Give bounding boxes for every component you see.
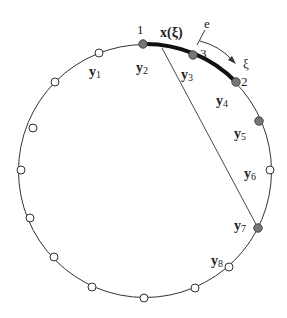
node bbox=[225, 263, 233, 271]
diagram-canvas: 1 3 2 x(ξ) e ξ y1 y2 y3 y4 y5 y6 y7 y8 bbox=[0, 0, 287, 318]
y-label-8: y8 bbox=[211, 253, 223, 269]
node-3 bbox=[189, 51, 197, 59]
node-1 bbox=[139, 40, 147, 48]
node-label-2: 2 bbox=[241, 74, 248, 89]
open-nodes bbox=[17, 49, 274, 302]
node-y7 bbox=[254, 224, 262, 232]
y-label-1: y1 bbox=[89, 64, 101, 80]
node bbox=[17, 166, 25, 174]
node-y5 bbox=[255, 117, 263, 125]
xi-label: ξ bbox=[243, 56, 249, 71]
node bbox=[29, 124, 37, 132]
y-label-2: y2 bbox=[136, 60, 148, 76]
node-label-3: 3 bbox=[200, 46, 207, 61]
node bbox=[51, 78, 59, 86]
node-label-1: 1 bbox=[137, 22, 144, 37]
node bbox=[140, 294, 148, 302]
y-label-3: y3 bbox=[181, 67, 193, 83]
normal-label: e bbox=[204, 16, 210, 31]
element-label: x(ξ) bbox=[160, 25, 183, 41]
node bbox=[26, 214, 34, 222]
node bbox=[95, 49, 103, 57]
y-label-4: y4 bbox=[216, 93, 228, 109]
y-label-7: y7 bbox=[234, 218, 246, 234]
node-2 bbox=[232, 78, 240, 86]
node bbox=[266, 166, 274, 174]
node bbox=[191, 284, 199, 292]
normal-vector-line bbox=[197, 30, 205, 45]
node bbox=[88, 283, 96, 291]
y-label-6: y6 bbox=[244, 166, 256, 182]
y-label-5: y5 bbox=[234, 126, 246, 142]
node bbox=[50, 253, 58, 261]
